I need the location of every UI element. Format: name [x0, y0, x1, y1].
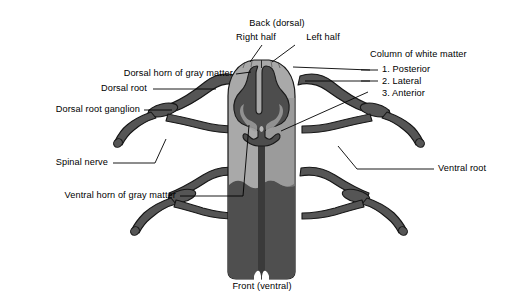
numbered-list-dashes: [361, 70, 378, 81]
label-dorsal-horn: Dorsal horn of gray matter: [35, 68, 233, 79]
left-upper-ventral-root: [166, 114, 236, 133]
left-lower-ventral-root: [174, 200, 236, 219]
spinal-cord-diagram-figure: Back (dorsal) Right half Left half Colum…: [0, 0, 506, 301]
label-right-half: Right half: [222, 32, 290, 43]
label-spinal-nerve: Spinal nerve: [12, 157, 108, 168]
label-ventral-horn: Ventral horn of gray matter: [12, 190, 176, 201]
ventral-median-fissure: [258, 140, 265, 279]
label-left-half: Left half: [292, 32, 354, 43]
spinal-cord-body: [228, 60, 295, 280]
label-column-item-anterior: 3. Anterior: [382, 88, 425, 99]
label-ventral-root: Ventral root: [438, 163, 486, 174]
leader-left-half: [272, 45, 295, 62]
label-column-of-white-matter: Column of white matter: [370, 49, 467, 60]
label-dorsal-root-ganglion: Dorsal root ganglion: [12, 104, 140, 115]
right-lower-ventral-root: [302, 200, 364, 219]
leader-ventral-root: [338, 146, 434, 169]
label-column-item-posterior: 1. Posterior: [382, 64, 430, 75]
label-dorsal-root: Dorsal root: [35, 83, 147, 94]
leader-posterior: [293, 67, 370, 70]
label-back-dorsal: Back (dorsal): [232, 18, 322, 29]
label-column-item-lateral: 2. Lateral: [382, 76, 421, 87]
label-front-ventral: Front (ventral): [221, 281, 303, 292]
spinal-cord-illustration: [0, 0, 506, 301]
central-canal: [259, 126, 264, 133]
